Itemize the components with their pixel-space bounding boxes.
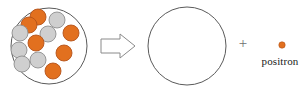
neutron-particle	[11, 42, 27, 58]
nuclear-decay-diagram: + positron	[0, 0, 306, 91]
neutron-particle	[49, 12, 65, 28]
positron-label: positron	[252, 55, 306, 68]
yields-arrow-icon	[101, 34, 135, 58]
proton-particle	[56, 45, 72, 61]
positron-dot-icon	[279, 42, 285, 48]
diagram-canvas	[0, 0, 306, 91]
daughter-nucleus-boundary	[148, 7, 226, 85]
plus-sign: +	[236, 36, 250, 50]
proton-particle	[45, 63, 61, 79]
neutron-particle	[12, 25, 28, 41]
proton-particle	[63, 25, 79, 41]
proton-particle	[28, 35, 44, 51]
neutron-particle	[14, 56, 30, 72]
neutron-particle	[30, 52, 46, 68]
